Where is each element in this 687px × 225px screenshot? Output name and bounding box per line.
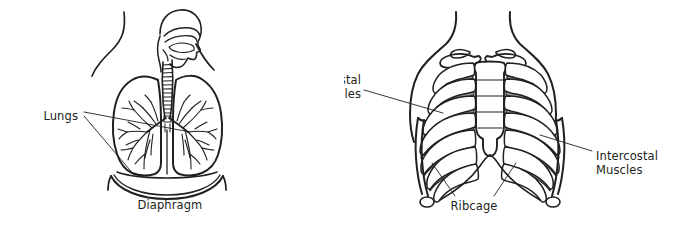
lungs-and-diaphragm-diagram: Lungs Diaphragm xyxy=(0,0,344,225)
rib-tip-knob-left xyxy=(420,197,434,207)
diaphragm-crus-right xyxy=(223,176,226,190)
posterior-neck-line xyxy=(158,36,161,72)
ribcage-and-intercostal-muscles-diagram: Intercostal Muscles Intercostal Muscles … xyxy=(344,0,687,225)
bronchial-tree-right xyxy=(177,95,217,169)
rib-tip-knob-right xyxy=(546,197,560,207)
label-diaphragm: Diaphragm xyxy=(138,198,203,212)
tongue-shape xyxy=(169,43,194,52)
nasal-cavity-line xyxy=(164,28,200,36)
neck-contour-left xyxy=(92,12,125,76)
label-intercostal-muscles-right-line2: Muscles xyxy=(596,163,643,177)
label-intercostal-muscles-right-line1: Intercostal xyxy=(596,149,658,163)
oral-cavity-line xyxy=(165,36,197,42)
trachea-wall-left xyxy=(162,62,165,118)
ribs-left-group xyxy=(420,63,478,202)
label-ribcage: Ribcage xyxy=(451,199,498,213)
label-intercostal-muscles-left-line1: Intercostal xyxy=(344,73,361,87)
jaw-line xyxy=(170,55,186,59)
sternum xyxy=(475,62,506,157)
label-intercostal-muscles-left-line2: Muscles xyxy=(344,87,361,101)
bronchial-tree-left xyxy=(118,95,158,169)
epiglottis-line xyxy=(163,50,168,61)
anatomy-figure: Lungs Diaphragm xyxy=(0,0,687,225)
label-lungs: Lungs xyxy=(43,109,78,123)
diaphragm-crus-left xyxy=(108,176,111,190)
